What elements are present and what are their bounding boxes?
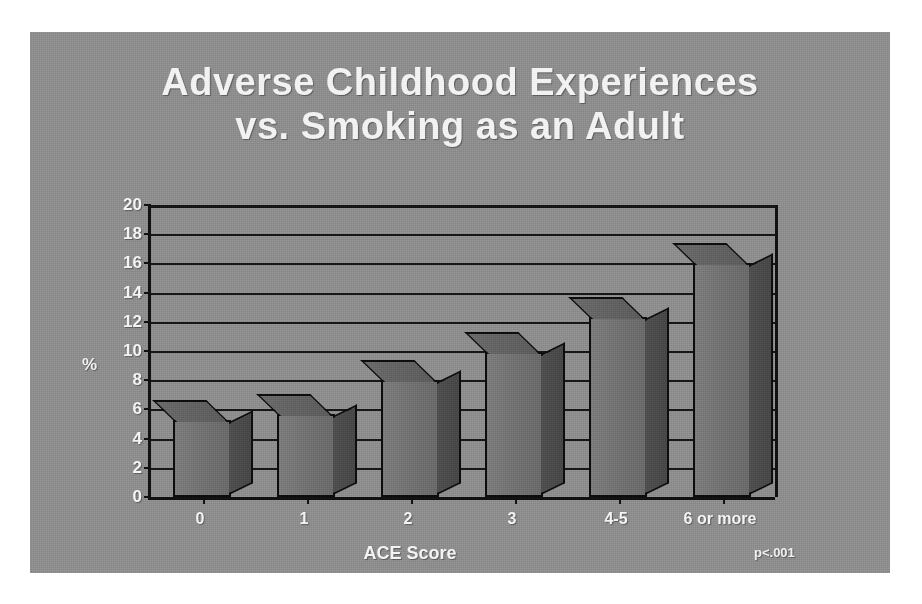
y-axis-tick-mark (144, 438, 151, 440)
plot-right-frame (775, 205, 778, 497)
y-axis-tick-label: 8 (133, 370, 142, 390)
x-axis-tick-mark (515, 497, 517, 504)
bar-side-face (749, 254, 773, 495)
y-axis-tick-mark (144, 262, 151, 264)
gridline (151, 322, 775, 324)
bar-top-face (256, 394, 333, 416)
x-axis-tick-mark (307, 497, 309, 504)
gridline (151, 234, 775, 236)
x-axis-tick-mark (203, 497, 205, 504)
bar-top-face (360, 360, 437, 382)
plot-area: 02468101214161820 (148, 205, 775, 500)
bar-side-face (645, 308, 669, 495)
y-axis-tick-mark (144, 379, 151, 381)
y-axis-tick-mark (144, 350, 151, 352)
y-axis-tick-mark (144, 496, 151, 498)
gridline (151, 205, 775, 208)
y-axis-tick-mark (144, 467, 151, 469)
y-axis-tick-mark (144, 292, 151, 294)
gridline (151, 263, 775, 265)
bar-top-face (152, 400, 229, 422)
bar (381, 380, 439, 497)
p-value-annotation: p<.001 (754, 545, 795, 560)
chart: % 02468101214161820 ACE Score p<.001 012… (30, 32, 890, 573)
x-axis-tick-mark (723, 497, 725, 504)
x-axis-tick-label: 2 (404, 510, 413, 528)
bar-side-face (541, 343, 565, 495)
bar-top-face (568, 297, 645, 319)
x-axis-tick-mark (619, 497, 621, 504)
y-axis-tick-mark (144, 321, 151, 323)
y-axis-tick-mark (144, 408, 151, 410)
y-axis-tick-label: 20 (123, 195, 142, 215)
y-axis-tick-label: 0 (133, 487, 142, 507)
x-axis-tick-label: 6 or more (684, 510, 757, 528)
gridline (151, 293, 775, 295)
y-axis-tick-label: 6 (133, 399, 142, 419)
x-axis-label: ACE Score (30, 543, 790, 564)
y-axis-tick-label: 4 (133, 428, 142, 448)
gridline (151, 409, 775, 411)
y-axis-label: % (82, 355, 97, 375)
bar-side-face (437, 370, 461, 495)
y-axis-tick-label: 12 (123, 311, 142, 331)
bar (173, 420, 231, 497)
bar (693, 263, 751, 497)
x-axis-tick-label: 0 (196, 510, 205, 528)
bar-side-face (333, 404, 357, 495)
x-axis-tick-label: 1 (300, 510, 309, 528)
bar (589, 317, 647, 497)
y-axis-tick-label: 2 (133, 457, 142, 477)
y-axis-tick-label: 10 (123, 341, 142, 361)
y-axis-tick-mark (144, 233, 151, 235)
bar-top-face (672, 243, 749, 265)
y-axis-tick-mark (144, 204, 151, 206)
gridline (151, 380, 775, 382)
bar (277, 414, 335, 497)
gridline (151, 351, 775, 353)
x-axis-tick-mark (411, 497, 413, 504)
y-axis-tick-label: 14 (123, 282, 142, 302)
slide-canvas: Adverse Childhood Experiences vs. Smokin… (30, 32, 890, 573)
y-axis-tick-label: 16 (123, 253, 142, 273)
bar (485, 352, 543, 497)
bar-side-face (229, 410, 253, 495)
x-axis-tick-label: 3 (508, 510, 517, 528)
x-axis-tick-label: 4-5 (604, 510, 627, 528)
y-axis-tick-label: 18 (123, 224, 142, 244)
